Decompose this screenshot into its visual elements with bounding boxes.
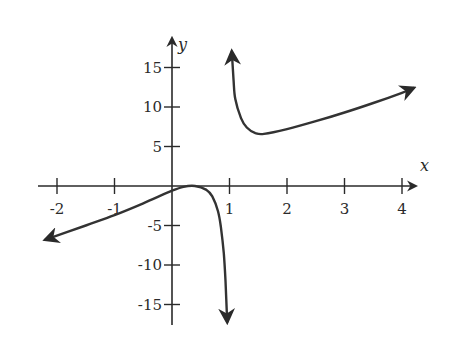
y-tick-label: -5 [147,217,162,235]
x-tick-label: 3 [340,200,350,218]
y-tick-label: 15 [143,59,162,77]
axes: -2-1123415105-5-10-15 [38,38,416,325]
x-tick-label: 4 [397,200,407,218]
curve-right-branch [232,52,414,134]
x-tick-label: 2 [282,200,292,218]
y-tick-label: -10 [138,256,162,274]
curve-left-branch [46,186,228,322]
x-axis-label: x [420,156,429,175]
x-tick-label: 1 [225,200,235,218]
y-axis-label: y [177,35,188,54]
y-tick-label: 10 [143,98,162,116]
y-tick-label: -15 [138,296,162,314]
y-tick-label: 5 [152,138,162,156]
function-graph: -2-1123415105-5-10-15 x y [0,0,451,349]
x-tick-label: -2 [50,200,65,218]
